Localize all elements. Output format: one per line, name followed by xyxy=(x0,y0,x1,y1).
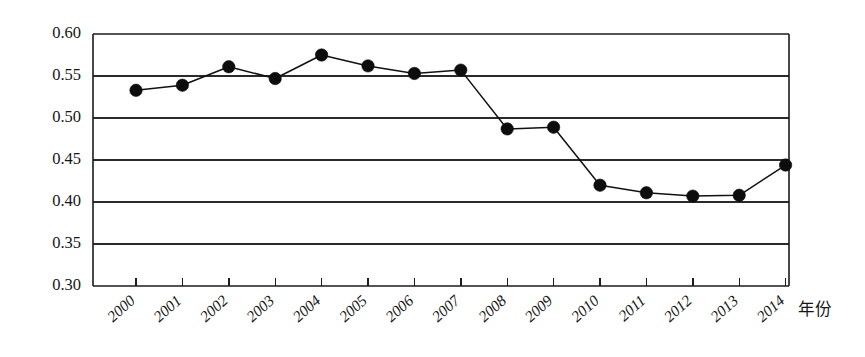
data-point xyxy=(779,159,791,171)
y-tick-label: 0.60 xyxy=(52,23,81,42)
x-tick-label: 2012 xyxy=(660,291,695,325)
x-tick-label: 2003 xyxy=(243,291,278,325)
x-axis-tick-labels: 2000200120022003200420052006200720082009… xyxy=(104,291,788,325)
data-point xyxy=(687,190,699,202)
y-tick-label: 0.45 xyxy=(52,149,81,168)
x-tick-label: 2002 xyxy=(196,291,231,325)
x-tick-label: 2005 xyxy=(336,291,371,325)
data-point xyxy=(594,179,606,191)
x-axis-title: 年份 xyxy=(798,300,832,319)
x-tick-label: 2001 xyxy=(150,292,184,325)
x-tick-label: 2009 xyxy=(521,291,556,325)
x-tick-label: 2000 xyxy=(104,291,139,325)
data-point xyxy=(315,49,327,61)
y-tick-label: 0.40 xyxy=(52,191,81,210)
data-point xyxy=(130,84,142,96)
x-tick-label: 2004 xyxy=(289,291,324,325)
grid-lines xyxy=(93,76,789,244)
x-tick-label: 2011 xyxy=(615,292,649,325)
x-tick-label: 2008 xyxy=(475,291,510,325)
data-point xyxy=(640,187,652,199)
data-point xyxy=(501,123,513,135)
y-tick-label: 0.50 xyxy=(52,107,81,126)
data-point xyxy=(269,72,281,84)
x-tick-label: 2014 xyxy=(753,291,788,325)
y-axis-tick-labels: 0.300.350.400.450.500.550.60 xyxy=(52,23,81,294)
x-tick-label: 2006 xyxy=(382,291,417,325)
data-point xyxy=(408,67,420,79)
data-point xyxy=(176,79,188,91)
data-point xyxy=(362,60,374,72)
x-axis-ticks xyxy=(136,278,786,286)
y-tick-label: 0.35 xyxy=(52,233,81,252)
x-tick-label: 2013 xyxy=(707,291,742,325)
data-series xyxy=(130,49,792,203)
x-tick-label: 2010 xyxy=(568,291,603,325)
line-chart: 0.300.350.400.450.500.550.60 20002001200… xyxy=(0,0,865,357)
data-point xyxy=(733,189,745,201)
data-point xyxy=(547,121,559,133)
data-point xyxy=(455,64,467,76)
data-point xyxy=(223,61,235,73)
y-tick-label: 0.55 xyxy=(52,65,81,84)
chart-container: 0.300.350.400.450.500.550.60 20002001200… xyxy=(0,0,865,357)
y-tick-label: 0.30 xyxy=(52,275,81,294)
x-tick-label: 2007 xyxy=(428,291,463,325)
